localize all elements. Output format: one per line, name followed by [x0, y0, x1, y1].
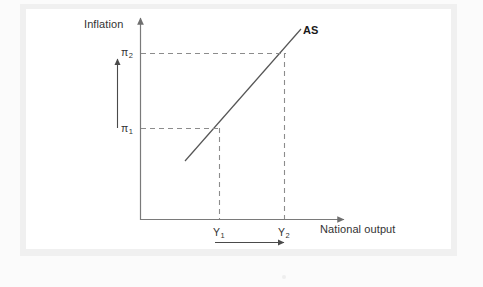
y-tick-subscript-pi-2: 2	[129, 51, 133, 60]
as-curve	[185, 29, 301, 161]
x-tick-symbol-y-1: Y	[213, 226, 220, 238]
as-curve-label: AS	[303, 25, 318, 36]
y-axis-label: Inflation	[84, 19, 123, 30]
y-tick-symbol-pi-2: π	[121, 46, 128, 58]
x-tick-label-y-2: Y2	[278, 227, 289, 238]
x-tick-subscript-y-1: 1	[220, 231, 224, 240]
y-tick-label-pi-1: π1	[121, 123, 132, 134]
x-tick-symbol-y-2: Y	[278, 226, 285, 238]
y-tick-symbol-pi-1: π	[121, 122, 128, 134]
x-tick-label-y-1: Y1	[213, 227, 224, 238]
x-axis-label: National output	[320, 224, 396, 235]
y-tick-label-pi-2: π2	[121, 47, 132, 58]
x-tick-subscript-y-2: 2	[285, 231, 289, 240]
as-curve-diagram	[0, 0, 483, 287]
page-artifact-dot	[282, 275, 286, 279]
figure-page: Inflation π2 π1 AS Y1 Y2 National output	[0, 0, 483, 287]
y-tick-subscript-pi-1: 1	[129, 127, 133, 136]
